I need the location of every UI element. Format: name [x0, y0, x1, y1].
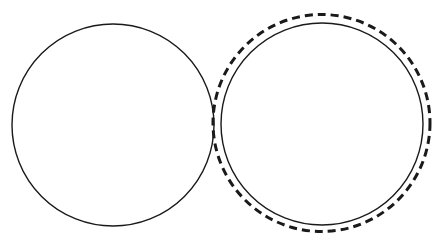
circles-diagram	[0, 0, 445, 246]
background	[0, 0, 445, 246]
